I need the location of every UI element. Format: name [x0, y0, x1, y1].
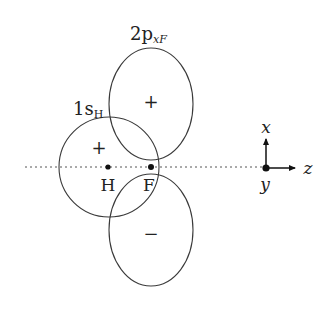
atom-label-f: F	[143, 175, 155, 195]
phase-sign-p-upper: +	[143, 91, 158, 112]
p-orbital-label: 2pxF	[130, 23, 167, 46]
hf-orbital-diagram: 2pxF 1sH + − + H F x z y	[0, 0, 328, 310]
axis-label-y: y	[259, 174, 270, 194]
coordinate-axes: x z y	[259, 117, 313, 194]
axis-label-z: z	[303, 158, 314, 178]
atom-label-h: H	[101, 175, 116, 195]
axis-label-x: x	[261, 117, 271, 137]
axis-origin-dot	[262, 164, 269, 171]
hydrogen-nucleus-dot	[105, 164, 110, 169]
s-orbital-label: 1sH	[73, 98, 103, 121]
fluorine-nucleus-dot	[148, 164, 154, 170]
phase-sign-p-lower: −	[143, 223, 158, 244]
phase-sign-s: +	[91, 137, 106, 158]
